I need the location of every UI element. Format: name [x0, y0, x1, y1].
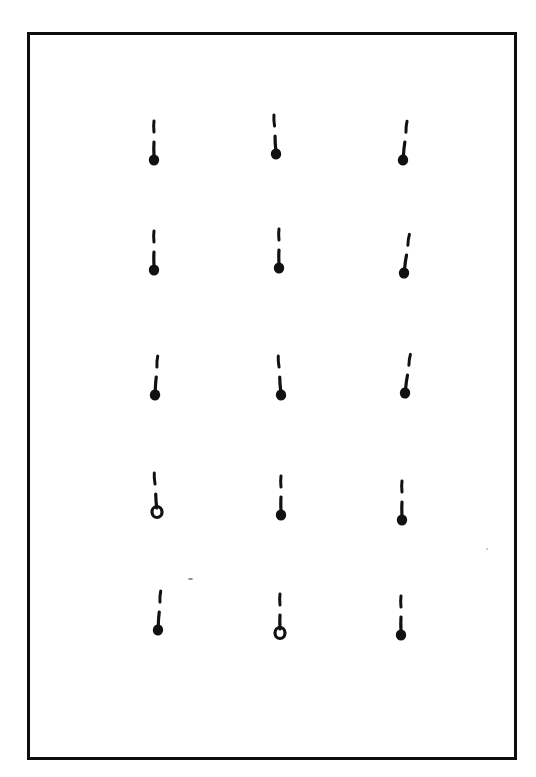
- drop-mark-r5-c2: [270, 593, 290, 643]
- stray-speck: [486, 548, 488, 550]
- drop-mark-icon: [144, 354, 167, 405]
- drop-mark-icon: [271, 475, 291, 525]
- drop-mark-r4-c2: [271, 475, 291, 525]
- drop-mark-icon: [144, 230, 164, 280]
- drop-mark-r1-c2: [264, 114, 287, 165]
- drop-mark-icon: [268, 354, 291, 405]
- drop-mark-icon: [147, 589, 170, 640]
- drop-mark-r3-c2: [268, 354, 291, 405]
- drop-mark-r3-c1: [144, 354, 167, 405]
- drop-mark-icon: [144, 120, 164, 170]
- drop-mark-icon: [264, 114, 287, 165]
- drop-mark-r2-c2: [269, 228, 289, 278]
- drop-mark-icon: [269, 228, 289, 278]
- stray-speck: [188, 578, 193, 580]
- drop-mark-icon: [391, 595, 411, 645]
- drop-mark-icon: [144, 471, 167, 522]
- drop-mark-icon: [270, 593, 290, 643]
- drop-mark-r5-c3: [391, 595, 411, 645]
- drop-mark-r4-c1: [144, 471, 167, 522]
- drop-mark-icon: [392, 480, 412, 530]
- drop-mark-r1-c1: [144, 120, 164, 170]
- drop-mark-r5-c1: [147, 589, 170, 640]
- drop-mark-r2-c1: [144, 230, 164, 280]
- drop-mark-r4-c3: [392, 480, 412, 530]
